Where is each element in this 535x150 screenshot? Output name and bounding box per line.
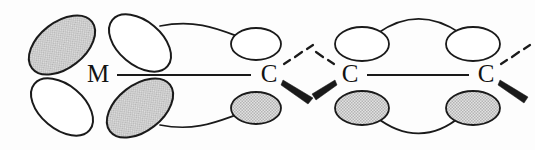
atom-label-metal: M xyxy=(87,60,109,87)
carbon-right-lobe-lower-shaded xyxy=(446,91,500,125)
carbon-left-lobe-lower-shaded xyxy=(231,92,281,124)
carbon-left-lobe-upper-white xyxy=(231,28,281,60)
orbital-diagram-canvas: M C C C xyxy=(0,0,535,150)
carbon-right-lobe-upper-white xyxy=(446,27,500,61)
atom-label-carbon-right: C xyxy=(478,60,495,87)
carbon-mid-lobe-lower-shaded xyxy=(335,91,389,125)
orbital-diagram-figure: M C C C xyxy=(0,0,535,150)
carbon-mid-lobe-upper-white xyxy=(335,27,389,61)
atom-label-carbon-left: C xyxy=(261,60,278,87)
atom-label-carbon-mid: C xyxy=(342,60,359,87)
